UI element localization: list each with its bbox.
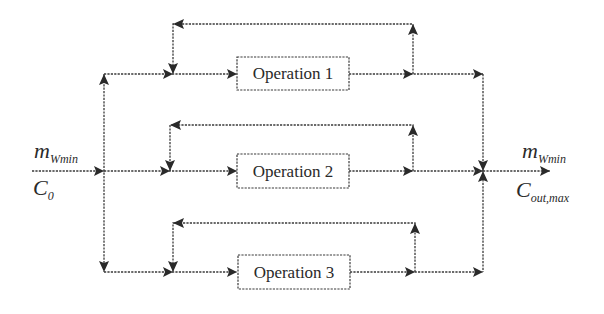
input-conc-subscript: 0 bbox=[48, 189, 54, 203]
input-flow-label: mWmin bbox=[34, 138, 78, 167]
output-flow-label: mWmin bbox=[522, 138, 566, 167]
operation-1-label: Operation 1 bbox=[237, 57, 349, 90]
input-flow-symbol: m bbox=[34, 138, 50, 163]
output-concentration-label: Cout,max bbox=[516, 177, 569, 206]
input-concentration-label: C0 bbox=[33, 175, 54, 204]
output-flow-symbol: m bbox=[522, 138, 538, 163]
operation-2-label: Operation 2 bbox=[237, 155, 349, 188]
input-arrow-icon bbox=[94, 166, 104, 176]
output-flow-subscript: Wmin bbox=[538, 152, 566, 166]
up-arrow-icon bbox=[99, 74, 109, 85]
operation-3-label: Operation 3 bbox=[238, 256, 350, 289]
output-conc-symbol: C bbox=[516, 177, 531, 202]
output-conc-subscript: out,max bbox=[531, 191, 569, 205]
input-flow-subscript: Wmin bbox=[50, 152, 78, 166]
input-conc-symbol: C bbox=[33, 175, 48, 200]
